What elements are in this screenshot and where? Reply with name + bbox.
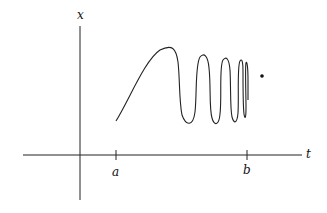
isolated-point — [260, 74, 264, 78]
oscillating-curve — [116, 47, 248, 123]
vertical-axis-label: x — [77, 9, 84, 21]
horizontal-axis-label: t — [306, 148, 311, 160]
graph-canvas — [0, 0, 327, 213]
tick-label-b: b — [243, 164, 251, 176]
tick-label-a: a — [112, 166, 119, 178]
